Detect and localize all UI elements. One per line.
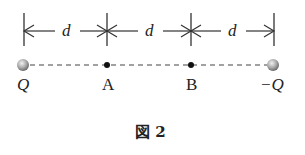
point-b-label: B [186, 76, 197, 93]
distance-label-1: d [62, 22, 71, 39]
figure-caption: 図 2 [135, 120, 166, 141]
charge-neg-q-label: −Q [260, 76, 284, 93]
distance-label-3: d [228, 22, 237, 39]
distance-label-2: d [145, 22, 154, 39]
point-a-dot [104, 62, 110, 68]
charge-q-sphere [17, 59, 29, 71]
charge-q-label: Q [17, 76, 29, 93]
charge-neg-q-sphere [267, 59, 279, 71]
point-b-dot [188, 62, 194, 68]
point-a-label: A [102, 76, 114, 93]
